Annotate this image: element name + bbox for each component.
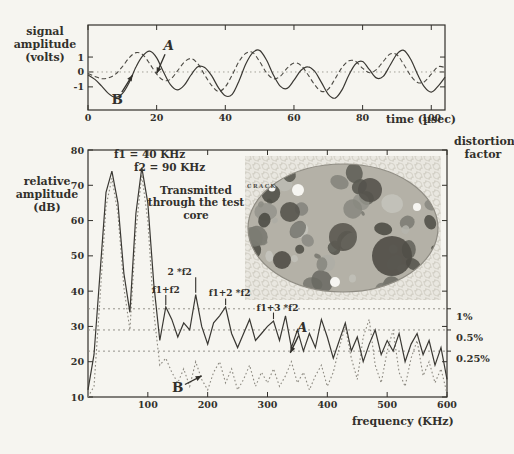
x-tick-label: 300 xyxy=(258,399,278,410)
distortion-level-label: 0.25% xyxy=(456,353,490,364)
void-highlight xyxy=(330,277,340,287)
x-tick-label: 20 xyxy=(150,112,164,123)
test-core-photo: CRACK xyxy=(240,156,443,300)
x-tick-label: 100 xyxy=(138,399,158,410)
x-tick-label: 60 xyxy=(287,112,301,123)
transmitted-annotation: Transmitted through the test core xyxy=(146,184,246,221)
y-tick-label: 50 xyxy=(71,250,85,261)
x-tick-label: 600 xyxy=(437,399,457,410)
x-tick-label: 40 xyxy=(219,112,233,123)
series-B xyxy=(88,50,445,98)
curve-label-B: B xyxy=(111,91,122,107)
f2-annotation: f2 = 90 KHz xyxy=(134,161,205,173)
aggregate-blob xyxy=(280,202,300,222)
distortion-level-label: 0.5% xyxy=(456,332,483,343)
peak-label: 2 *f2 xyxy=(168,267,192,277)
curve-label-B: B xyxy=(172,379,183,395)
x-tick-label: 80 xyxy=(356,112,370,123)
y-tick-label: 10 xyxy=(71,392,85,403)
scanned-figure: 02040608010010-1AB1002003004005006001020… xyxy=(0,0,514,454)
bottom-y-axis-label: relative amplitude (dB) xyxy=(8,176,86,215)
curve-label-A: A xyxy=(161,37,173,53)
curve-label-A: A xyxy=(295,319,307,335)
peak-label: f1+2 *f2 xyxy=(209,288,251,298)
y-tick-label: 60 xyxy=(71,215,85,226)
void-highlight xyxy=(292,184,304,196)
aggregate-blob xyxy=(329,223,357,251)
bottom-x-axis-label: frequency (KHz) xyxy=(352,416,454,429)
top-y-axis-label: signal amplitude (volts) xyxy=(12,26,78,65)
time-waveform-frame xyxy=(88,25,445,110)
top-x-axis-label: time (µsec) xyxy=(386,114,456,127)
y-tick-label: 30 xyxy=(71,321,85,332)
distortion-factor-label: distortion factor xyxy=(454,136,512,162)
aggregate-blob xyxy=(273,251,291,269)
figure-canvas: 02040608010010-1AB1002003004005006001020… xyxy=(0,0,514,454)
time-waveform-chart: 02040608010010-1AB xyxy=(73,25,445,123)
x-tick-label: 200 xyxy=(198,399,218,410)
f1-annotation: f1 = 40 KHz xyxy=(114,148,185,160)
y-tick-label: 1 xyxy=(77,52,84,63)
x-tick-label: 500 xyxy=(377,399,397,410)
distortion-level-label: 1% xyxy=(456,311,473,322)
y-tick-label: 40 xyxy=(71,286,85,297)
y-tick-label: 0 xyxy=(77,66,84,77)
aggregate-blob xyxy=(372,236,412,276)
y-tick-label: 20 xyxy=(71,356,85,367)
y-tick-label: -1 xyxy=(73,81,84,92)
crack-label: CRACK xyxy=(247,183,277,189)
peak-label: f1+3 *f2 xyxy=(257,303,299,313)
aggregate-blob xyxy=(358,178,382,202)
void-highlight xyxy=(413,203,421,211)
peak-label: f1+f2 xyxy=(152,285,180,295)
x-tick-label: 0 xyxy=(85,112,92,123)
x-tick-label: 400 xyxy=(317,399,337,410)
spectrum-chart: 1002003004005006001020304050607080CRACK1… xyxy=(71,145,491,411)
y-tick-label: 80 xyxy=(71,145,85,156)
